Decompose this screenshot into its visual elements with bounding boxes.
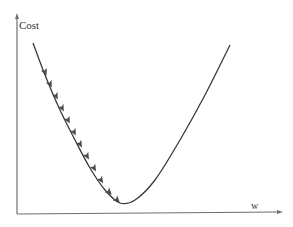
x-axis-arrow-icon	[277, 210, 283, 214]
x-axis	[17, 212, 279, 214]
axes	[15, 13, 283, 214]
cost-chart	[0, 0, 293, 227]
x-axis-label: w	[251, 200, 258, 211]
y-axis-label: Cost	[19, 19, 39, 31]
step-arrow-icon	[90, 164, 99, 173]
cost-curve	[33, 43, 230, 204]
gradient-descent-steps	[41, 68, 122, 205]
